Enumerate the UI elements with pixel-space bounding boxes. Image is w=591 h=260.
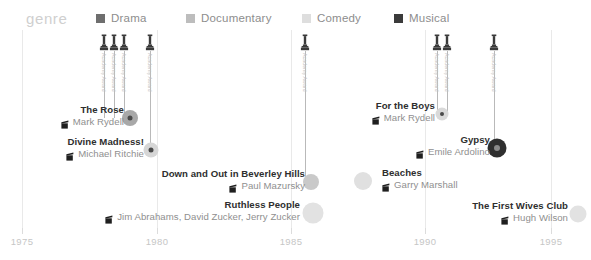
trophy-icon (433, 34, 442, 51)
trophy-icon (443, 34, 452, 51)
data-point-core[interactable] (494, 145, 500, 151)
film-director-line: Emile Ardolino (416, 146, 490, 158)
film-director: Mark Rydell (73, 116, 124, 128)
legend-label: Documentary (201, 12, 272, 24)
film-title: The First Wives Club (472, 200, 568, 212)
legend-item-comedy[interactable]: Comedy (302, 12, 361, 24)
film-director: Hugh Wilson (513, 212, 568, 224)
gridline-1990 (425, 30, 426, 228)
trophy-icon (490, 34, 499, 51)
film-entry[interactable]: The First Wives ClubHugh Wilson (472, 200, 568, 224)
award-caption: Academy Award (101, 53, 107, 92)
data-point-core[interactable] (149, 148, 154, 153)
legend-item-documentary[interactable]: Documentary (186, 12, 272, 24)
tick-1975 (22, 228, 23, 234)
gridline-1975 (22, 30, 23, 228)
award-caption: Academy Award (111, 53, 117, 92)
clapperboard-icon (501, 214, 509, 223)
film-director-line: Jim Abrahams, David Zucker, Jerry Zucker (105, 211, 300, 223)
clapperboard-icon (382, 181, 390, 190)
trophy-icon (301, 34, 310, 51)
tick-1995 (551, 228, 552, 234)
award-caption: Academy Award (121, 53, 127, 92)
film-entry[interactable]: For the BoysMark Rydell (372, 100, 435, 124)
legend-label: Drama (111, 12, 147, 24)
data-point[interactable] (354, 172, 372, 190)
data-point[interactable] (303, 174, 319, 190)
film-title: Divine Madness! (66, 136, 144, 148)
legend-label: Comedy (317, 12, 361, 24)
film-title: The Rose (61, 104, 124, 116)
film-director-line: Michael Ritchie (66, 148, 144, 160)
film-entry[interactable]: Down and Out in Beverley HillsPaul Mazur… (162, 168, 305, 192)
year-label-1990: 1990 (414, 236, 437, 247)
data-point-core[interactable] (128, 116, 133, 121)
film-director: Michael Ritchie (78, 148, 144, 160)
tick-1990 (425, 228, 426, 234)
film-director-line: Garry Marshall (382, 179, 458, 191)
film-director: Mark Rydell (384, 112, 435, 124)
chart-title: genre (26, 10, 67, 27)
film-director: Garry Marshall (394, 179, 458, 191)
film-entry[interactable]: Divine Madness!Michael Ritchie (66, 136, 144, 160)
legend: genre DramaDocumentaryComedyMusical (0, 0, 591, 30)
data-point[interactable] (303, 203, 324, 224)
legend-swatch (302, 14, 311, 23)
gridline-1995 (551, 30, 552, 228)
film-title: Gypsy (416, 134, 490, 146)
trophy-icon (120, 34, 129, 51)
trophy-icon (110, 34, 119, 51)
film-title: Beaches (382, 167, 458, 179)
award-caption: Academy Award (434, 53, 440, 92)
data-point[interactable] (570, 206, 587, 223)
legend-swatch (186, 14, 195, 23)
film-director: Emile Ardolino (428, 146, 490, 158)
year-label-1980: 1980 (146, 236, 169, 247)
film-entry[interactable]: GypsyEmile Ardolino (416, 134, 490, 158)
year-label-1985: 1985 (280, 236, 303, 247)
award-caption: Academy Award (302, 53, 308, 92)
film-title: Down and Out in Beverley Hills (162, 168, 305, 180)
year-label-1995: 1995 (540, 236, 563, 247)
legend-item-musical[interactable]: Musical (394, 12, 449, 24)
clapperboard-icon (416, 148, 424, 157)
clapperboard-icon (229, 182, 237, 191)
award-caption: Academy Award (444, 53, 450, 92)
clapperboard-icon (66, 150, 74, 159)
legend-swatch (96, 14, 105, 23)
film-title: Ruthless People (105, 199, 300, 211)
film-director-line: Paul Mazursky (162, 180, 305, 192)
data-point-core[interactable] (440, 112, 444, 116)
clapperboard-icon (61, 118, 69, 127)
trophy-icon (146, 34, 155, 51)
film-director-line: Mark Rydell (61, 116, 124, 128)
award-caption: Academy Award (147, 53, 153, 92)
clapperboard-icon (105, 213, 113, 222)
film-entry[interactable]: Ruthless PeopleJim Abrahams, David Zucke… (105, 199, 300, 223)
tick-1980 (157, 228, 158, 234)
film-director-line: Mark Rydell (372, 112, 435, 124)
award-caption: Academy Award (491, 53, 497, 92)
tick-1985 (291, 228, 292, 234)
film-director: Jim Abrahams, David Zucker, Jerry Zucker (117, 211, 300, 223)
film-director: Paul Mazursky (241, 180, 305, 192)
film-entry[interactable]: BeachesGarry Marshall (382, 167, 458, 191)
trophy-icon (100, 34, 109, 51)
year-label-1975: 1975 (11, 236, 34, 247)
legend-item-drama[interactable]: Drama (96, 12, 147, 24)
timeline-chart: 19751980198519901995 Academy AwardAcadem… (0, 0, 591, 260)
film-entry[interactable]: The RoseMark Rydell (61, 104, 124, 128)
legend-swatch (394, 14, 403, 23)
film-director-line: Hugh Wilson (472, 212, 568, 224)
film-title: For the Boys (372, 100, 435, 112)
clapperboard-icon (372, 114, 380, 123)
legend-label: Musical (409, 12, 449, 24)
